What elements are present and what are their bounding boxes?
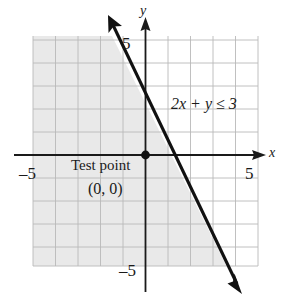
y-tick-label-minus5: –5 [119,262,136,279]
x-axis-label: x [269,146,275,160]
x-tick-label-minus5: –5 [19,165,36,182]
test-point-text: Test point [71,158,130,173]
y-axis-label: y [140,4,146,18]
x-tick-label-5: 5 [245,165,254,182]
inequality-graph-figure: y x 5 –5 –5 5 2x + y ≤ 3 Test point (0, … [0,0,291,308]
test-point-marker [141,151,150,160]
y-tick-label-5: 5 [122,35,131,52]
coordinate-plane-svg [0,0,291,308]
inequality-annotation: 2x + y ≤ 3 [171,96,237,112]
test-point-coordinates: (0, 0) [88,181,123,197]
